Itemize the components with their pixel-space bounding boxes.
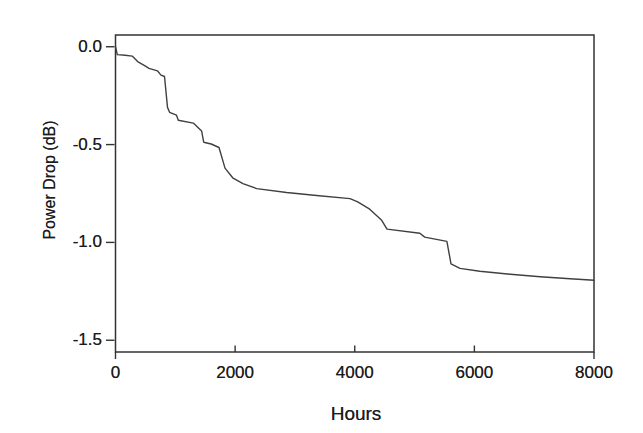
x-tick-label: 8000 bbox=[562, 363, 626, 383]
power-drop-chart: Power Drop (dB) Hours 0.0-0.5-1.0-1.5 02… bbox=[0, 0, 643, 433]
y-tick-label: -1.0 bbox=[38, 232, 102, 252]
x-tick-label: 0 bbox=[84, 363, 148, 383]
y-tick-label: 0.0 bbox=[38, 37, 102, 57]
x-tick-label: 4000 bbox=[323, 363, 387, 383]
x-tick-label: 2000 bbox=[203, 363, 267, 383]
power-drop-curve bbox=[116, 47, 595, 281]
x-axis-title: Hours bbox=[306, 403, 406, 425]
y-tick-label: -0.5 bbox=[38, 135, 102, 155]
x-tick-label: 6000 bbox=[442, 363, 506, 383]
y-tick-label: -1.5 bbox=[38, 330, 102, 350]
plot-frame bbox=[116, 35, 595, 352]
